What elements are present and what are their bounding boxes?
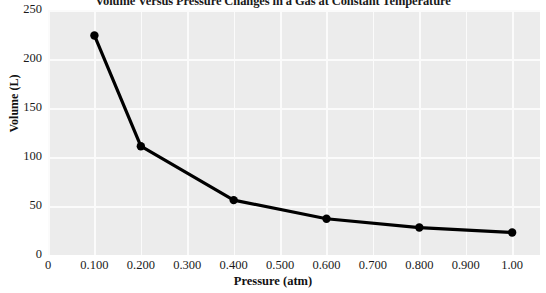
data-point	[137, 142, 145, 150]
chart-title: Volume Versus Pressure Changes in a Gas …	[0, 0, 546, 9]
y-tick-label: 50	[2, 198, 42, 213]
data-point	[229, 196, 237, 204]
data-point	[90, 31, 98, 39]
y-axis-title: Volume (L)	[7, 54, 22, 154]
y-tick-label: 250	[2, 2, 42, 17]
x-axis-title: Pressure (atm)	[0, 274, 546, 289]
line-path	[94, 35, 512, 232]
data-series-volume	[48, 10, 540, 255]
plot-area	[48, 10, 540, 255]
data-point	[322, 215, 330, 223]
chart-container: Volume Versus Pressure Changes in a Gas …	[0, 0, 546, 293]
data-point	[415, 223, 423, 231]
x-tick-label: 1.00	[482, 258, 542, 273]
data-point	[508, 228, 516, 236]
data-markers	[90, 31, 516, 236]
